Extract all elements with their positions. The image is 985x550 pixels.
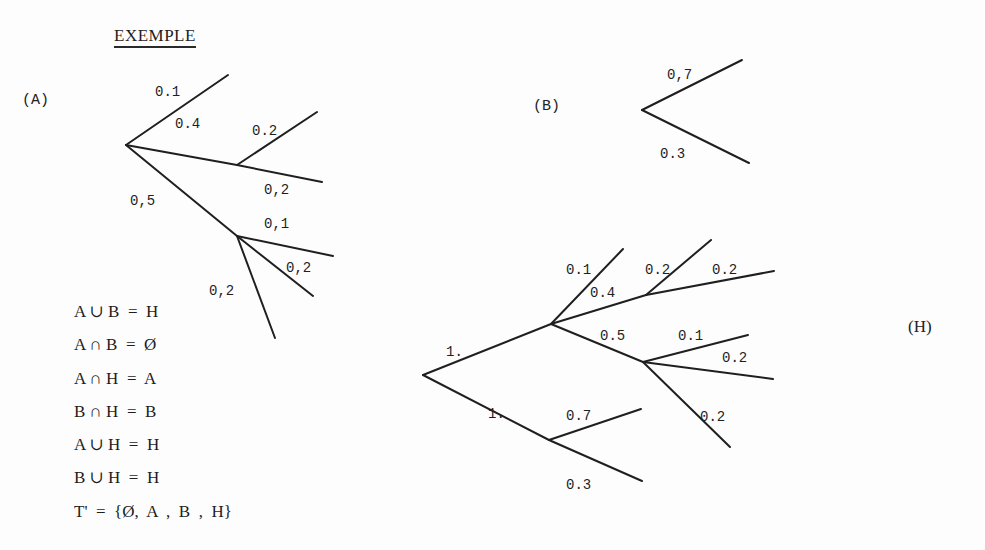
tree-a-probability-label: 0.4 <box>175 116 200 132</box>
tree-h-probability-label: 0.2 <box>712 262 737 278</box>
tree-h-probability-label: 0.1 <box>566 262 591 278</box>
equation-a-intersect-h: A ∩ H = A <box>74 367 232 400</box>
tree-h-probability-label: 0.4 <box>590 285 615 301</box>
equation-b-union-h: B ∪ H = H <box>74 466 232 499</box>
tree-a-probability-label: 0,5 <box>130 193 155 209</box>
tree-a: 0.10.40.20,20,50,10,20,2 <box>126 75 333 338</box>
tree-h-branch <box>643 362 773 379</box>
tree-h-probability-label: 0.2 <box>700 409 725 425</box>
tree-h-branch <box>551 324 643 362</box>
tree-h-branch <box>423 324 551 375</box>
tree-b-probability-label: 0.3 <box>660 146 685 162</box>
equation-a-union-h: A ∪ H = H <box>74 433 232 466</box>
tree-h-probability-label: 0.5 <box>600 328 625 344</box>
tree-a-probability-label: 0.2 <box>252 123 277 139</box>
tree-a-probability-label: 0,2 <box>286 260 311 276</box>
tree-a-branch <box>237 165 322 182</box>
tree-b-probability-label: 0,7 <box>667 67 692 83</box>
tree-a-probability-label: 0,1 <box>264 216 289 232</box>
tree-h-probability-label: 0.1 <box>678 328 703 344</box>
equation-a-intersect-b: A ∩ B = Ø <box>74 333 232 366</box>
tree-a-probability-label: 0.1 <box>155 84 180 100</box>
tree-h-probability-label: 0.7 <box>566 408 591 424</box>
tree-h-probability-label: 1. <box>488 406 505 422</box>
equation-b-intersect-h: B ∩ H = B <box>74 400 232 433</box>
tree-h-probability-label: 0.3 <box>566 477 591 493</box>
tree-h-probability-label: 1. <box>446 344 463 360</box>
tree-a-branch <box>237 236 333 256</box>
equation-a-union-b: A ∪ B = H <box>74 300 232 333</box>
tree-b-branch <box>642 110 749 163</box>
tree-b: 0,70.3 <box>642 60 749 163</box>
tree-h-probability-label: 0.2 <box>645 262 670 278</box>
tree-a-probability-label: 0,2 <box>209 283 234 299</box>
tree-a-probability-label: 0,2 <box>264 182 289 198</box>
tree-a-branch <box>126 145 237 165</box>
tree-h-branch <box>423 375 549 440</box>
equation-t-prime: T' = {Ø, A , B , H} <box>74 500 232 533</box>
tree-h-branch <box>549 440 642 481</box>
tree-h-branch <box>643 362 730 447</box>
tree-h-probability-label: 0.2 <box>722 350 747 366</box>
tree-h-branch <box>549 409 641 440</box>
tree-h: 1.0.10.40.20.20.50.10.20.21.0.70.3 <box>423 240 774 493</box>
set-equations-list: A ∪ B = H A ∩ B = Ø A ∩ H = A B ∩ H = B … <box>74 300 232 533</box>
document-page: EXEMPLE (A) (B) (H) 0.10.40.20,20,50,10,… <box>0 0 985 550</box>
tree-a-branch <box>126 145 237 236</box>
